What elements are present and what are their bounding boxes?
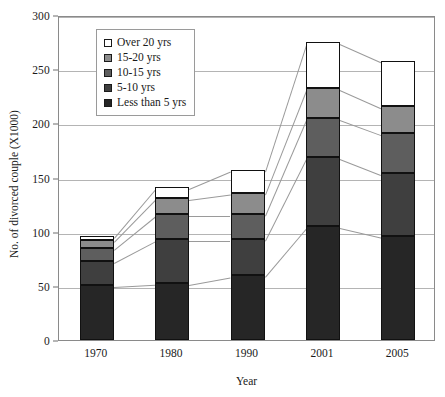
segment-connector [189,241,230,242]
bar-stack-1990 [231,15,265,340]
segment-connector [189,172,231,190]
legend-label: 15-20 yrs [117,52,161,64]
segment-connector [189,277,231,286]
legend-label: 10-15 yrs [117,67,161,79]
segment-connector [265,228,307,277]
y-tick-label: 250 [32,64,50,76]
legend-label: Less than 5 yrs [117,97,186,109]
x-tick-label: 1980 [160,347,183,359]
legend-swatch-icon [104,84,112,92]
bar-segment [231,214,265,239]
segment-connector [265,44,307,172]
bar-stack-2005 [381,15,415,340]
x-tick-label: 2005 [386,347,409,359]
segment-connector [340,159,382,176]
bar-segment [306,226,340,340]
segment-connector [189,195,231,201]
x-tick-label: 1990 [235,347,258,359]
y-tick-label: 50 [38,281,50,293]
y-axis-title: No. of divorced couple (X1000) [8,84,20,284]
legend-swatch-icon [104,39,112,47]
bar-segment [381,236,415,340]
segment-connector [114,189,156,238]
bar-segment [381,173,415,236]
bar-segment [231,193,265,215]
bar-segment [306,42,340,88]
y-tick-label: 0 [44,335,50,347]
bar-segment [231,170,265,193]
bar-segment [306,157,340,226]
bar-segment [381,133,415,173]
bar-segment [80,240,114,248]
x-tick-label: 1970 [84,347,107,359]
segment-connector [340,120,382,136]
x-tick-label: 2001 [310,347,333,359]
bar-segment [231,239,265,275]
segment-connector [339,44,381,63]
y-tick-label: 100 [32,227,50,239]
legend-swatch-icon [104,99,112,107]
bar-segment [231,275,265,340]
legend-label: 5-10 yrs [117,82,155,94]
y-tick-label: 150 [32,173,50,185]
bar-segment [306,118,340,157]
legend-item: 15-20 yrs [104,50,186,65]
bar-segment [381,61,415,107]
chart-legend: Over 20 yrs15-20 yrs10-15 yrs5-10 yrsLes… [96,29,195,116]
bar-segment [155,198,189,214]
legend-swatch-icon [104,54,112,62]
y-tick-label: 300 [32,10,50,22]
bar-segment [80,261,114,285]
bar-segment [306,88,340,118]
legend-item: Less than 5 yrs [104,95,186,110]
bar-segment [155,214,189,239]
segment-connector [339,90,381,109]
bar-segment [155,283,189,340]
bar-segment [381,106,415,133]
bar-segment [80,285,114,340]
legend-item: Over 20 yrs [104,35,186,50]
legend-label: Over 20 yrs [117,37,171,49]
bar-stack-2001 [306,15,340,340]
bar-segment [80,236,114,240]
bar-segment [155,239,189,282]
segment-connector [189,216,230,217]
legend-item: 5-10 yrs [104,80,186,95]
legend-item: 10-15 yrs [104,65,186,80]
y-tick-label: 200 [32,118,50,130]
x-axis: 19701980199020012005 [58,347,435,365]
x-axis-title: Year [58,375,435,387]
bar-segment [80,248,114,261]
stacked-bar-chart: 050100150200250300 No. of divorced coupl… [0,0,445,397]
legend-swatch-icon [104,69,112,77]
bar-segment [155,187,189,198]
